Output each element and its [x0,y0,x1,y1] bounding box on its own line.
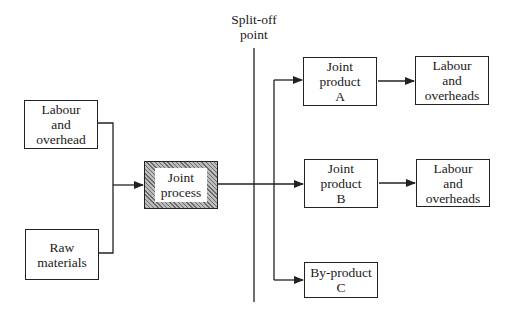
node-labour-and-overheads-a: Labour and overheads [415,56,489,105]
node-raw-materials: Raw materials [25,229,99,280]
node-labour-and-overhead: Labour and overhead [24,100,98,149]
connector-labour-in [98,123,113,185]
joint-process-label: Joint process [155,168,208,202]
node-by-product-c: By-product C [304,262,378,298]
node-labour-and-overheads-b: Labour and overheads [416,159,490,207]
node-joint-process: Joint process [144,161,218,209]
node-joint-product-a: Joint product A [303,57,377,106]
split-off-point-label: Split-off point [222,12,286,42]
connector-raw-materials [99,185,113,253]
node-joint-product-b: Joint product B [304,159,378,208]
flow-diagram: Split-off point Labour and overhead Raw … [0,0,514,317]
